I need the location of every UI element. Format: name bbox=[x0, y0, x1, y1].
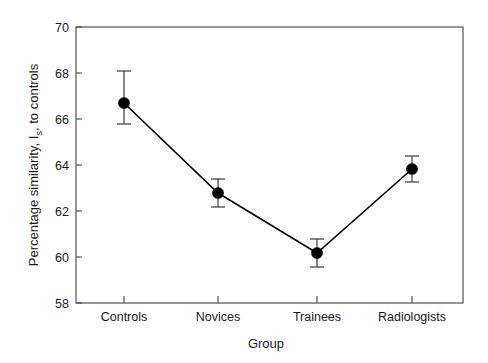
error-bars bbox=[117, 71, 419, 267]
y-tick-label-62: 62 bbox=[55, 205, 69, 219]
y-tick-label-64: 64 bbox=[55, 159, 69, 173]
x-axis-tick-labels: Controls Novices Trainees Radiologists bbox=[101, 310, 446, 324]
y-axis-title: Percentage similarity, Is, to controls bbox=[26, 63, 44, 266]
x-tick-label-radiologists: Radiologists bbox=[378, 310, 446, 324]
data-point-controls bbox=[118, 97, 129, 108]
y-axis-title-tail: , to controls bbox=[26, 63, 41, 131]
x-tick-label-controls: Controls bbox=[101, 310, 148, 324]
y-axis-ticks bbox=[76, 27, 82, 303]
data-point-novices bbox=[212, 187, 223, 198]
series-line bbox=[124, 103, 412, 253]
y-tick-label-58: 58 bbox=[55, 297, 69, 311]
plot-frame bbox=[76, 27, 463, 303]
y-tick-label-68: 68 bbox=[55, 67, 69, 81]
x-tick-label-novices: Novices bbox=[196, 310, 240, 324]
chart-figure: 70 68 66 64 62 60 58 Controls Novices Tr… bbox=[0, 0, 488, 363]
y-axis-tick-labels: 70 68 66 64 62 60 58 bbox=[55, 21, 69, 311]
y-axis-title-main: Percentage similarity, I bbox=[26, 136, 41, 267]
data-point-radiologists bbox=[406, 163, 417, 174]
data-point-markers bbox=[118, 97, 417, 258]
x-axis-ticks bbox=[124, 296, 412, 303]
x-tick-label-trainees: Trainees bbox=[293, 310, 341, 324]
data-point-trainees bbox=[311, 247, 322, 258]
y-tick-label-66: 66 bbox=[55, 113, 69, 127]
y-tick-label-70: 70 bbox=[55, 21, 69, 35]
x-axis-title: Group bbox=[248, 336, 284, 351]
line-chart: 70 68 66 64 62 60 58 Controls Novices Tr… bbox=[0, 0, 488, 363]
y-tick-label-60: 60 bbox=[55, 251, 69, 265]
